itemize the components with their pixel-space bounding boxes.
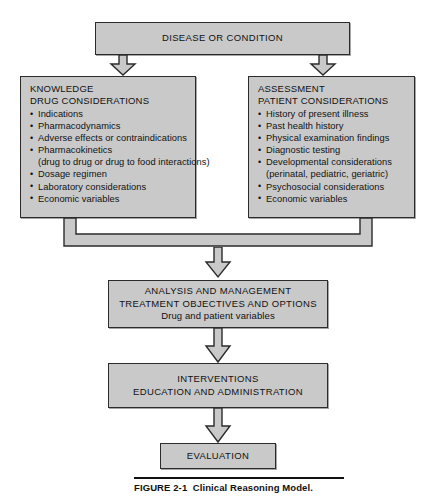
interventions-line1: INTERVENTIONS — [177, 373, 258, 386]
list-item: Past health history — [258, 120, 406, 132]
assessment-heading-line1: ASSESSMENT — [258, 83, 406, 95]
list-item: Indications — [30, 108, 187, 120]
connector-analysis-to-interventions-arrow — [203, 328, 233, 364]
list-item: Economic variables — [30, 193, 187, 205]
analysis-line3: Drug and patient variables — [161, 310, 275, 323]
list-item: Economic variables — [258, 193, 406, 205]
analysis-line1: ANALYSIS AND MANAGEMENT — [145, 285, 292, 298]
interventions-line2: EDUCATION AND ADMINISTRATION — [133, 386, 303, 399]
knowledge-heading-line2: DRUG CONSIDERATIONS — [30, 95, 187, 107]
node-knowledge-drug-considerations: KNOWLEDGE DRUG CONSIDERATIONS Indication… — [20, 76, 196, 218]
clinical-reasoning-figure: DISEASE OR CONDITION KNOWLEDGE DRUG CONS… — [0, 0, 433, 497]
list-item: Laboratory considerations — [30, 181, 187, 193]
node-analysis-and-management: ANALYSIS AND MANAGEMENT TREATMENT OBJECT… — [108, 280, 328, 328]
knowledge-heading-line1: KNOWLEDGE — [30, 83, 187, 95]
list-item: Psychosocial considerations — [258, 181, 406, 193]
caption-divider-rule — [134, 477, 344, 479]
evaluation-label: EVALUATION — [187, 450, 249, 463]
node-assessment-patient-considerations: ASSESSMENT PATIENT CONSIDERATIONS Histor… — [248, 76, 415, 218]
figure-number: FIGURE 2-1 — [134, 482, 187, 493]
list-item: Adverse effects or contraindications — [30, 132, 187, 144]
figure-caption: FIGURE 2-1 Clinical Reasoning Model. — [134, 482, 313, 493]
list-item: Pharmacokinetics — [30, 144, 187, 156]
list-item: Dosage regimen — [30, 168, 187, 180]
list-item: Physical examination findings — [258, 132, 406, 144]
list-item-continuation: (drug to drug or drug to food interactio… — [30, 156, 187, 168]
list-item: Pharmacodynamics — [30, 120, 187, 132]
disease-label: DISEASE OR CONDITION — [162, 32, 283, 45]
list-item: Diagnostic testing — [258, 144, 406, 156]
connector-merge-to-analysis-arrow — [203, 247, 233, 279]
node-interventions: INTERVENTIONS EDUCATION AND ADMINISTRATI… — [108, 363, 328, 408]
assessment-item-list: History of present illness Past health h… — [258, 108, 406, 205]
assessment-heading-line2: PATIENT CONSIDERATIONS — [258, 95, 406, 107]
figure-title: Clinical Reasoning Model. — [193, 482, 313, 493]
knowledge-item-list: Indications Pharmacodynamics Adverse eff… — [30, 108, 187, 205]
list-item: History of present illness — [258, 108, 406, 120]
node-evaluation: EVALUATION — [160, 443, 276, 469]
connector-interventions-to-evaluation-arrow — [203, 408, 233, 444]
list-item-continuation: (perinatal, pediatric, geriatric) — [258, 168, 406, 180]
list-item: Developmental considerations — [258, 156, 406, 168]
connector-disease-to-knowledge-arrow — [108, 55, 138, 76]
connector-disease-to-assessment-arrow — [308, 55, 338, 76]
node-disease-or-condition: DISEASE OR CONDITION — [95, 22, 350, 55]
analysis-line2: TREATMENT OBJECTIVES AND OPTIONS — [119, 298, 317, 311]
